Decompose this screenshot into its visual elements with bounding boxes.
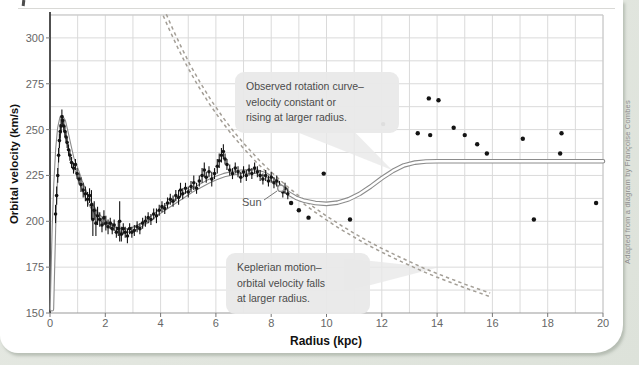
- data-point: [198, 179, 202, 183]
- data-point: [222, 150, 226, 154]
- callout-keplerian-line2: orbital velocity falls: [237, 276, 359, 292]
- data-point: [149, 218, 153, 222]
- data-point: [86, 197, 90, 201]
- data-point: [289, 201, 293, 205]
- data-point: [242, 170, 246, 174]
- data-point: [110, 227, 114, 231]
- data-point: [594, 201, 598, 205]
- data-point: [181, 192, 185, 196]
- data-point: [215, 164, 219, 168]
- data-point: [166, 201, 170, 205]
- x-tick-label: 16: [486, 317, 498, 329]
- data-point: [186, 190, 190, 194]
- y-tick-label: 275: [26, 78, 44, 90]
- y-tick-label: 300: [26, 32, 44, 44]
- data-point: [108, 221, 112, 225]
- data-point: [81, 188, 85, 192]
- data-point: [200, 174, 204, 178]
- x-tick-label: 0: [47, 317, 53, 329]
- data-point: [177, 196, 181, 200]
- data-point: [56, 174, 60, 178]
- data-point: [239, 175, 243, 179]
- data-point: [54, 212, 58, 216]
- data-point: [171, 199, 175, 203]
- y-tick-label: 250: [26, 124, 44, 136]
- data-point: [558, 151, 562, 155]
- data-point: [269, 175, 273, 179]
- data-point: [451, 126, 455, 130]
- data-point: [475, 142, 479, 146]
- data-point: [189, 185, 193, 189]
- data-point: [65, 141, 69, 145]
- data-point: [88, 194, 92, 198]
- data-point: [192, 181, 196, 185]
- data-point: [98, 218, 102, 222]
- data-point: [58, 139, 62, 143]
- data-point: [100, 223, 104, 227]
- data-point: [532, 217, 536, 221]
- x-tick-label: 4: [158, 317, 164, 329]
- data-point: [55, 194, 59, 198]
- data-point: [267, 179, 271, 183]
- data-point: [138, 227, 142, 231]
- callout-observed-rotation-curve: Observed rotation curve– velocity consta…: [235, 72, 399, 133]
- data-point: [96, 214, 100, 218]
- x-tick-label: 12: [376, 317, 388, 329]
- data-point: [228, 168, 232, 172]
- callout-observed-line3: rising at larger radius.: [246, 110, 388, 126]
- data-point: [322, 171, 326, 175]
- data-point: [286, 192, 290, 196]
- data-point: [106, 225, 110, 229]
- data-point: [220, 153, 224, 157]
- data-point: [204, 175, 208, 179]
- data-point: [133, 229, 137, 233]
- data-point: [210, 177, 214, 181]
- data-point: [253, 166, 257, 170]
- data-point: [155, 214, 159, 218]
- y-tick-label: 225: [26, 169, 44, 181]
- x-tick-label: 10: [320, 317, 332, 329]
- data-point: [245, 174, 249, 178]
- data-point: [104, 221, 108, 225]
- callout-keplerian-motion: Keplerian motion– orbital velocity falls…: [226, 253, 370, 314]
- data-point: [84, 192, 88, 196]
- sun-label: Sun: [242, 196, 262, 208]
- data-point: [236, 170, 240, 174]
- data-point: [275, 179, 279, 183]
- data-point: [207, 170, 211, 174]
- data-point: [163, 207, 167, 211]
- data-point: [297, 208, 301, 212]
- x-tick-label: 20: [597, 317, 609, 329]
- data-point: [120, 232, 124, 236]
- data-point: [217, 159, 221, 163]
- data-point: [306, 215, 310, 219]
- x-tick-label: 6: [213, 317, 219, 329]
- data-point: [485, 151, 489, 155]
- data-point: [261, 177, 265, 181]
- y-tick-label: 175: [26, 261, 44, 273]
- data-point: [225, 163, 229, 167]
- callout-observed-line1: Observed rotation curve–: [246, 79, 388, 95]
- data-point: [68, 153, 72, 157]
- data-point: [463, 133, 467, 137]
- data-point: [521, 137, 525, 141]
- data-point: [184, 186, 188, 190]
- data-point: [57, 153, 61, 157]
- data-point: [74, 163, 78, 167]
- callout-keplerian-line3: at larger radius.: [237, 291, 359, 307]
- data-point: [231, 172, 235, 176]
- data-point: [250, 172, 254, 176]
- data-point: [233, 166, 237, 170]
- callout-observed-line2: velocity constant or: [246, 95, 388, 111]
- credit-caption: Adapted from a diagram by Françoise Comb…: [623, 100, 632, 264]
- x-axis-title: Radius (kpc): [290, 334, 362, 348]
- data-point: [121, 227, 125, 231]
- data-point: [79, 183, 83, 187]
- data-point: [213, 172, 217, 176]
- data-point: [223, 157, 227, 161]
- data-point: [416, 131, 420, 135]
- data-point: [128, 227, 132, 231]
- data-point: [348, 217, 352, 221]
- y-tick-label: 200: [26, 215, 44, 227]
- x-tick-label: 14: [431, 317, 443, 329]
